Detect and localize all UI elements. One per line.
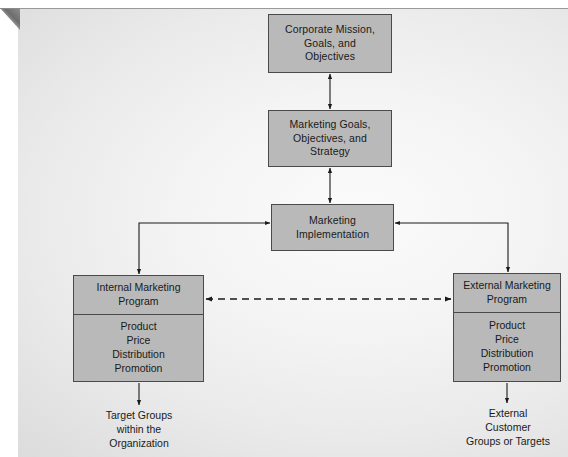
caption-target-groups: Target Groups within the Organization xyxy=(78,409,200,451)
node-marketing-goals-line-3: Strategy xyxy=(310,145,350,159)
figure-canvas: Corporate Mission, Goals, and Objectives… xyxy=(0,0,568,457)
internal-program-marketing-mix: Product Price Distribution Promotion xyxy=(74,315,203,381)
caption-external-customers: External Customer Groups or Targets xyxy=(452,407,564,449)
external-mix-price: Price xyxy=(495,333,519,347)
external-program-header-line-2: Program xyxy=(487,293,527,307)
internal-mix-promotion: Promotion xyxy=(115,362,163,376)
caption-external-customers-line-1: External xyxy=(452,407,564,421)
node-marketing-goals-line-1: Marketing Goals, xyxy=(290,118,371,132)
caption-target-groups-line-1: Target Groups xyxy=(78,409,200,423)
node-marketing-implementation-line-2: Implementation xyxy=(296,228,369,242)
external-mix-distribution: Distribution xyxy=(481,347,534,361)
node-corporate-line-2: Goals, and xyxy=(304,37,356,51)
external-mix-product: Product xyxy=(489,319,525,333)
caption-target-groups-line-3: Organization xyxy=(78,437,200,451)
caption-target-groups-line-2: within the xyxy=(78,423,200,437)
internal-mix-price: Price xyxy=(127,334,151,348)
node-marketing-goals: Marketing Goals, Objectives, and Strateg… xyxy=(268,110,392,167)
internal-mix-distribution: Distribution xyxy=(112,348,165,362)
internal-program-header-line-1: Internal Marketing xyxy=(96,281,180,295)
corner-edge-line xyxy=(0,8,20,9)
node-marketing-goals-line-2: Objectives, and xyxy=(293,132,367,146)
internal-mix-product: Product xyxy=(120,320,156,334)
internal-program-header-line-2: Program xyxy=(118,295,158,309)
caption-external-customers-line-2: Customer xyxy=(452,421,564,435)
caption-external-customers-line-3: Groups or Targets xyxy=(452,435,564,449)
external-program-header: External Marketing Program xyxy=(454,274,560,313)
external-program-marketing-mix: Product Price Distribution Promotion xyxy=(454,313,560,381)
node-corporate-line-1: Corporate Mission, xyxy=(285,23,375,37)
node-internal-marketing-program: Internal Marketing Program Product Price… xyxy=(73,275,204,382)
node-external-marketing-program: External Marketing Program Product Price… xyxy=(453,273,561,382)
external-mix-promotion: Promotion xyxy=(483,361,531,375)
node-corporate-mission: Corporate Mission, Goals, and Objectives xyxy=(268,14,392,73)
corner-wedge-decoration xyxy=(0,8,20,30)
node-corporate-line-3: Objectives xyxy=(305,50,355,64)
plate-top-rule xyxy=(18,8,568,9)
node-marketing-implementation: Marketing Implementation xyxy=(271,204,394,251)
external-program-header-line-1: External Marketing xyxy=(463,279,551,293)
internal-program-header: Internal Marketing Program xyxy=(74,276,203,315)
node-marketing-implementation-line-1: Marketing xyxy=(309,214,356,228)
